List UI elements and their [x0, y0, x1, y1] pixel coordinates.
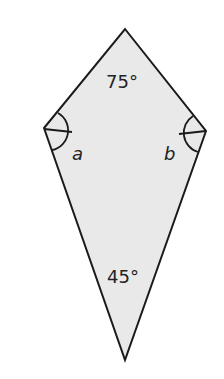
- top-angle-label: 75°: [106, 71, 138, 92]
- kite-diagram: 75° 45° a b: [0, 0, 224, 379]
- right-angle-label: b: [164, 143, 175, 164]
- bottom-angle-label: 45°: [107, 266, 139, 287]
- left-angle-label: a: [72, 143, 83, 164]
